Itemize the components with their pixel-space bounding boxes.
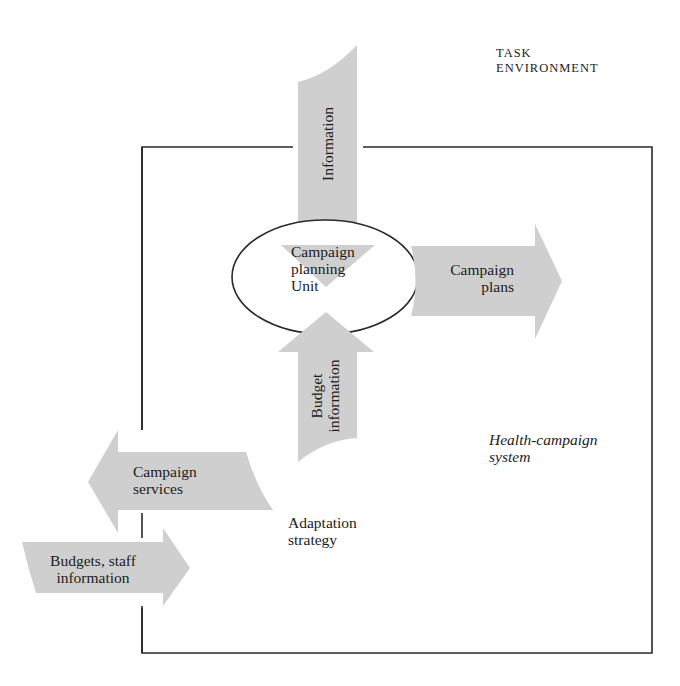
task-environment-line1: TASK: [496, 46, 599, 61]
center-node-line2: planning: [291, 260, 355, 277]
campaign-plans-label: Campaign plans: [443, 261, 514, 295]
adaptation-line1: Adaptation: [288, 514, 357, 531]
health-campaign-system-label: Health-campaign system: [489, 431, 597, 465]
campaign-services-line2: services: [133, 480, 197, 497]
campaign-plans-line1: Campaign: [443, 261, 514, 278]
campaign-plans-line2: plans: [443, 278, 514, 295]
budgets-staff-label: Budgets, staff information: [38, 552, 148, 586]
budget-information-line1: Budget: [308, 348, 325, 444]
information-arrow-label: Information: [319, 94, 337, 194]
budgets-staff-line2: information: [38, 569, 148, 586]
campaign-services-line1: Campaign: [133, 463, 197, 480]
center-node-line3: Unit: [291, 277, 355, 294]
system-boundary-box: [142, 147, 652, 653]
task-environment-line2: ENVIRONMENT: [496, 61, 599, 76]
budget-information-line2: information: [325, 348, 342, 444]
center-node-line1: Campaign: [291, 243, 355, 260]
campaign-services-label: Campaign services: [133, 463, 197, 497]
budget-information-label: Budget information: [308, 348, 344, 444]
system-label-line1: Health-campaign: [489, 431, 597, 448]
adaptation-strategy-label: Adaptation strategy: [288, 514, 357, 548]
task-environment-label: TASK ENVIRONMENT: [496, 46, 599, 76]
system-label-line2: system: [489, 448, 597, 465]
campaign-planning-unit-label: Campaign planning Unit: [291, 243, 355, 294]
adaptation-line2: strategy: [288, 531, 357, 548]
budgets-staff-line1: Budgets, staff: [38, 552, 148, 569]
diagram-canvas: TASK ENVIRONMENT Information Campaign pl…: [0, 0, 680, 686]
